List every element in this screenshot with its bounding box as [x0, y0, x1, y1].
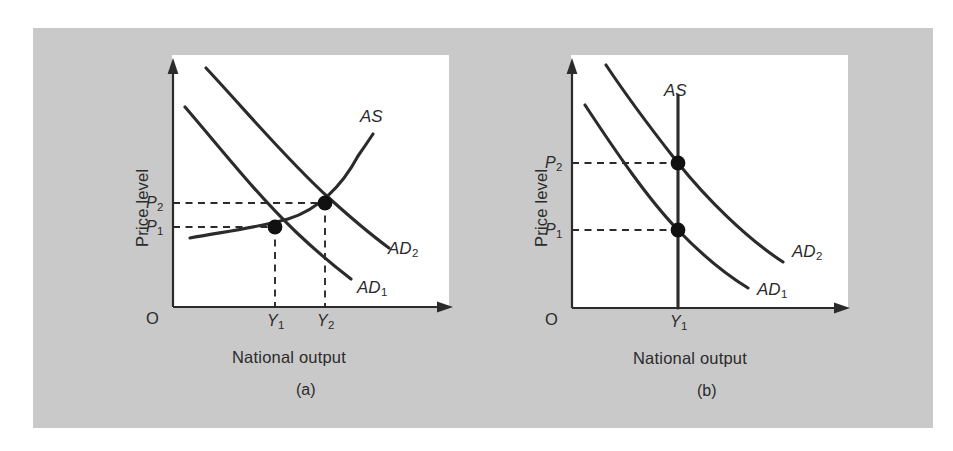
- panel-b-ad1-label-sub: 1: [781, 288, 788, 300]
- panel-b-ad2-label: AD2: [792, 243, 822, 263]
- panel-b-as-label-text: AS: [664, 81, 687, 100]
- panel-b-x-axis-label: National output: [633, 350, 747, 367]
- panel-b-y-tick-p2-base: P: [545, 154, 556, 171]
- figure-root: Price level P2 P1 O Y1 Y2 AS AD2 AD1 Nat…: [0, 0, 953, 451]
- panel-b-y-tick-p1-sub: 1: [556, 228, 563, 240]
- panel-b-ad2-label-sub: 2: [816, 250, 823, 262]
- panel-b-x-tick-y1-base: Y: [670, 313, 681, 330]
- panel-b-y-tick-p1-base: P: [545, 221, 556, 238]
- panel-b-x-tick-y1: Y1: [670, 314, 687, 333]
- panel-b-x-axis-label-text: National output: [633, 349, 747, 367]
- panel-b-x-tick-y1-sub: 1: [681, 320, 688, 332]
- panel-b: Price level P2 P1 O Y1 AS AD2 AD1 Nation…: [0, 0, 953, 451]
- panel-b-origin-label: O: [545, 311, 558, 328]
- panel-b-origin-text: O: [545, 310, 558, 328]
- panel-b-as-label: AS: [664, 82, 687, 99]
- panel-b-ad1-label: AD1: [757, 281, 787, 301]
- panel-b-caption-text: (b): [697, 382, 717, 399]
- panel-b-y-tick-p2: P2: [545, 155, 562, 174]
- panel-b-y-tick-p2-sub: 2: [556, 161, 563, 173]
- panel-b-ad2-label-base: AD: [792, 242, 816, 261]
- panel-b-y-tick-p1: P1: [545, 222, 562, 241]
- panel-b-caption: (b): [697, 383, 717, 399]
- panel-b-ad1-label-base: AD: [757, 280, 781, 299]
